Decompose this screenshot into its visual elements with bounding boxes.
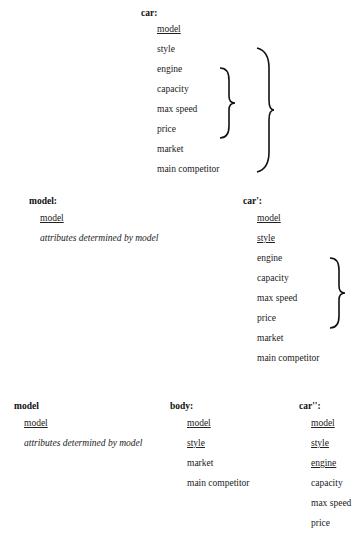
attribute: price bbox=[257, 313, 276, 324]
attribute: price bbox=[157, 124, 176, 135]
key-attribute: style bbox=[311, 438, 329, 449]
key-attribute: model bbox=[40, 213, 64, 224]
dependency-brace-icon bbox=[255, 46, 275, 174]
attribute: capacity bbox=[257, 273, 289, 284]
key-attribute: style bbox=[257, 233, 275, 244]
key-attribute: model bbox=[257, 213, 281, 224]
attribute: attributes determined by model bbox=[24, 438, 142, 449]
attribute: main competitor bbox=[187, 478, 250, 489]
attribute: max speed bbox=[311, 498, 351, 509]
attribute: main competitor bbox=[157, 164, 220, 175]
dependency-brace-icon bbox=[328, 256, 348, 330]
key-attribute: model bbox=[157, 24, 181, 35]
entity-title: model: bbox=[29, 196, 57, 207]
attribute: engine bbox=[257, 253, 282, 264]
attribute: engine bbox=[157, 64, 182, 75]
attribute: max speed bbox=[257, 293, 297, 304]
attribute: main competitor bbox=[257, 353, 320, 364]
attribute: max speed bbox=[157, 104, 197, 115]
attribute: market bbox=[157, 144, 183, 155]
attribute: price bbox=[311, 518, 330, 529]
dependency-brace-icon bbox=[218, 66, 238, 140]
key-attribute: model bbox=[24, 418, 48, 429]
entity-title: car'': bbox=[299, 401, 321, 412]
attribute: capacity bbox=[157, 84, 189, 95]
key-attribute: model bbox=[187, 418, 211, 429]
attribute: style bbox=[157, 44, 175, 55]
key-attribute: style bbox=[187, 438, 205, 449]
entity-title: body: bbox=[170, 401, 193, 412]
attribute: market bbox=[257, 333, 283, 344]
attribute: market bbox=[187, 458, 213, 469]
attribute: capacity bbox=[311, 478, 343, 489]
entity-title: model bbox=[14, 401, 39, 412]
key-attribute: model bbox=[311, 418, 335, 429]
key-attribute: engine bbox=[311, 458, 336, 469]
attribute: attributes determined by model bbox=[40, 233, 158, 244]
entity-title: car: bbox=[141, 8, 157, 19]
entity-title: car': bbox=[243, 196, 262, 207]
